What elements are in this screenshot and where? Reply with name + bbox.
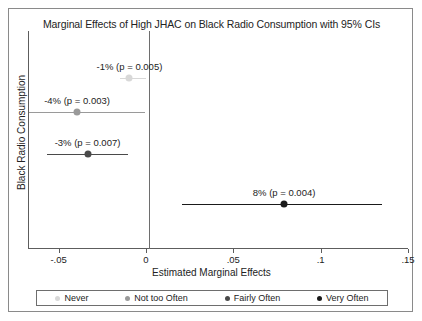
estimate-point-marker[interactable] <box>281 201 288 208</box>
x-axis-tick <box>321 249 322 253</box>
legend-item[interactable]: Very Often <box>317 293 369 303</box>
x-axis-tick-label: .1 <box>317 254 325 265</box>
chart-title: Marginal Effects of High JHAC on Black R… <box>9 18 414 30</box>
legend-item-label: Very Often <box>326 293 369 303</box>
y-axis-title: Black Radio Consumption <box>16 33 27 233</box>
x-axis-tick <box>59 249 60 253</box>
legend-item-label: Fairly Often <box>234 293 281 303</box>
x-axis-tick-label: -.05 <box>50 254 66 265</box>
x-axis-tick-label: .15 <box>401 254 414 265</box>
estimate-row[interactable]: 8% (p = 0.004) <box>29 31 409 249</box>
legend-item[interactable]: Never <box>55 293 88 303</box>
x-axis-tick <box>408 249 409 253</box>
x-axis-title: Estimated Marginal Effects <box>9 267 414 278</box>
chart-legend: NeverNot too OftenFairly OftenVery Often <box>36 290 388 306</box>
legend-marker-dot <box>317 296 322 301</box>
legend-marker-dot <box>225 296 230 301</box>
estimate-value-label: 8% (p = 0.004) <box>253 187 316 198</box>
legend-item-label: Never <box>64 293 88 303</box>
legend-item[interactable]: Fairly Often <box>225 293 281 303</box>
legend-item-label: Not too Often <box>134 293 188 303</box>
x-axis-tick <box>233 249 234 253</box>
legend-marker-dot <box>125 296 130 301</box>
chart-figure: Marginal Effects of High JHAC on Black R… <box>8 8 413 312</box>
plot-area: -1% (p = 0.005) -4% (p = 0.003) -3% (p =… <box>29 31 409 249</box>
x-axis-tick-label: 0 <box>143 254 148 265</box>
plot-frame: -1% (p = 0.005) -4% (p = 0.003) -3% (p =… <box>28 31 408 249</box>
x-axis-tick-label: .05 <box>227 254 240 265</box>
legend-marker-dot <box>55 296 60 301</box>
legend-item[interactable]: Not too Often <box>125 293 188 303</box>
x-axis-tick <box>146 249 147 253</box>
